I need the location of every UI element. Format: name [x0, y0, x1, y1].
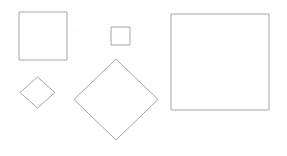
faint-speck-a-mark — [74, 30, 75, 31]
faint-speck-b-mark — [77, 31, 78, 32]
figure-canvas — [0, 0, 287, 156]
shapes-illustration — [0, 0, 287, 156]
canvas-background — [0, 0, 287, 156]
